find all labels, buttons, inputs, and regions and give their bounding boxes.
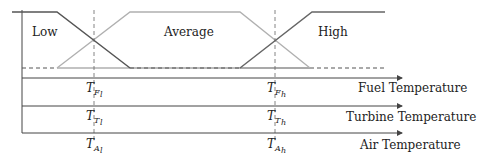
label-low: Low [32, 25, 58, 39]
svg-text:h: h [281, 118, 286, 127]
turbine-axis-label: Turbine Temperature [346, 110, 476, 124]
average-membership-line [57, 12, 310, 68]
threshold-fuel-low: T F l [86, 81, 103, 99]
threshold-fuel-high: T F h [267, 81, 286, 99]
svg-text:l: l [100, 118, 103, 127]
label-average: Average [163, 25, 214, 39]
threshold-air-high: T A h [267, 137, 286, 155]
fuel-axis-label: Fuel Temperature [358, 81, 467, 95]
air-axis-label: Air Temperature [359, 138, 461, 152]
membership-diagram: Low Average High Fuel Temperature T F l … [0, 0, 477, 162]
svg-text:l: l [100, 146, 103, 155]
high-membership-line [240, 12, 385, 68]
label-high: High [318, 25, 348, 39]
svg-text:F: F [93, 88, 100, 97]
svg-text:F: F [274, 88, 281, 97]
low-membership-line [12, 12, 130, 68]
svg-text:l: l [100, 90, 103, 99]
threshold-air-low: T A l [86, 137, 103, 155]
threshold-turbine-high: T T h [267, 109, 286, 127]
svg-text:A: A [274, 144, 281, 153]
threshold-turbine-low: T T l [86, 109, 103, 127]
svg-text:h: h [281, 90, 286, 99]
svg-text:h: h [281, 146, 286, 155]
svg-text:A: A [93, 144, 100, 153]
